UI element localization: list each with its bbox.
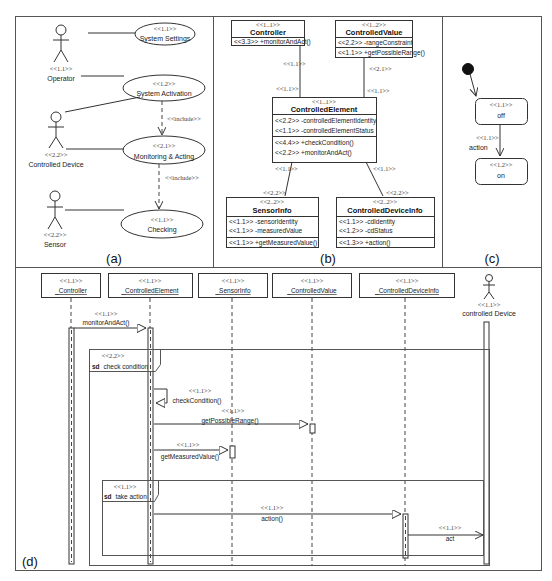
initial-state: [463, 64, 474, 75]
class-name: SensorInfo: [252, 206, 292, 215]
actor-controlled-device: <<2.2>> Controlled Device: [28, 112, 83, 168]
use-case-name: Monitoring & Acting: [134, 153, 194, 161]
fragment-keyword: sd: [92, 363, 100, 370]
actor-name: controlled Device: [462, 310, 516, 317]
class-attribute: <<1.1>> -measuredValue: [229, 227, 303, 234]
state-stereotype: <<1.2>>: [490, 161, 513, 168]
class-operation: <<2.2>> +monitorAndAct(): [275, 149, 352, 157]
class-name: ControlledValue: [345, 28, 402, 37]
use-case-diagram: <<1.1>> Operator <<2.2>> Controlled Devi…: [28, 23, 205, 266]
multiplicity-label: <<1.1>>: [276, 85, 299, 92]
multiplicity-label: <<1.1>>: [275, 165, 298, 172]
activation-bar-device: [484, 322, 489, 564]
class-controlled-device-info: <<2..2>> ControlledDeviceInfo <<1.1>> -c…: [337, 198, 435, 248]
fragment-keyword: sd: [104, 493, 112, 500]
class-stereotype: <<1..1>>: [312, 98, 337, 105]
use-case-system-settings: <<1.1>> System Settings: [135, 23, 195, 45]
class-operation: <<3.3>> +monitorAndAct(): [234, 38, 311, 46]
message-stereotype: <<1.1>>: [261, 504, 284, 511]
state-off: <<1.1>> off: [476, 99, 528, 125]
multiplicity-label: <<1.1>>: [373, 165, 396, 172]
panel-label-b: (b): [320, 251, 336, 266]
transition-label: action: [469, 144, 488, 151]
class-stereotype: <<2..2>>: [260, 198, 285, 205]
activation-bar-sensor-info: [230, 446, 235, 458]
lifeline-stereotype: <<1.1>>: [139, 277, 162, 284]
lifeline-name: _ControlledElement: [120, 287, 178, 295]
multiplicity-label: <<2.2>>: [386, 189, 409, 196]
class-stereotype: <<1..2>>: [362, 21, 387, 28]
actor-name: Sensor: [44, 241, 67, 248]
message-stereotype: <<1.1>>: [189, 387, 212, 394]
lifeline-name: _ControlledDeviceInfo: [374, 287, 439, 295]
panel-label-d: (d): [22, 554, 38, 569]
lifeline-name: _Controller: [54, 287, 88, 295]
message-check-condition: [154, 389, 167, 403]
class-operation: <<1.3>> +action(): [339, 239, 391, 247]
panel-label-c: (c): [484, 251, 499, 266]
lifeline-stereotype: <<1.1>>: [301, 277, 324, 284]
message-stereotype: <<1.1>>: [439, 524, 462, 531]
sequence-diagram: <<1.1>> _Controller <<1.1>> _ControlledE…: [22, 274, 516, 570]
message-label: act: [446, 535, 455, 542]
use-case-monitoring-acting: <<2.1>> Monitoring & Acting: [123, 136, 205, 164]
fragment-stereotype: <<2.2>>: [102, 352, 125, 359]
class-name: Controller: [250, 28, 286, 37]
fragment-take-action: [103, 481, 484, 556]
fragment-stereotype: <<1.1>>: [114, 483, 137, 490]
class-attribute: <<1.1>> -sensorIdentity: [229, 218, 298, 226]
message-stereotype: <<1.1>>: [95, 310, 118, 317]
message-label: monitorAndAct(): [83, 319, 130, 327]
lifeline-controlled-value: <<1.1>> _ControlledValue: [273, 274, 352, 298]
message-stereotype: <<1.1>>: [177, 441, 200, 448]
class-operation: <<1.1>> +getMeasuredValue(): [229, 239, 317, 247]
class-operation: <<4.4>> +checkCondition(): [275, 139, 354, 147]
actor-stereotype: <<2.2>>: [44, 231, 67, 238]
actor-name: Controlled Device: [28, 161, 83, 168]
use-case-name: Checking: [147, 226, 176, 234]
multiplicity-label: <<1.1>>: [367, 87, 390, 94]
fragment-name: check condition: [103, 363, 148, 370]
message-stereotype: <<1.1>>: [222, 407, 245, 414]
class-diagram: <<1.1>> <<1.1>> <<2.1>> <<1.1>> <<1.1>> …: [227, 21, 435, 267]
include-label: <<include>>: [165, 174, 199, 181]
use-case-system-activation: <<1.2>> System Activation: [123, 75, 205, 101]
lifeline-stereotype: <<1.1>>: [60, 277, 83, 284]
class-attribute: <<1.1>> -controlledElementStatus: [275, 127, 374, 134]
activation-bar-controlled-value: [310, 424, 315, 433]
class-attribute: <<1.2>> -cdStatus: [339, 227, 393, 234]
actor-stereotype: <<1.1>>: [478, 301, 501, 308]
actor-name: Operator: [47, 75, 75, 83]
state-diagram: <<1.1>> off <<1.1>> action <<1.2>> on (c…: [463, 64, 528, 267]
state-on: <<1.2>> on: [476, 159, 528, 185]
use-case-stereotype: <<1.1>>: [154, 25, 177, 32]
lifeline-stereotype: <<1.1>>: [222, 277, 245, 284]
lifeline-stereotype: <<1.1>>: [396, 277, 419, 284]
lifeline-controlled-element: <<1.1>> _ControlledElement: [109, 274, 193, 298]
use-case-stereotype: <<1.1>>: [151, 216, 174, 223]
use-case-stereotype: <<2.1>>: [153, 142, 176, 149]
lifeline-name: _ControlledValue: [286, 287, 337, 295]
fragment-title: sd take action: [104, 493, 147, 500]
class-controller: <<1..1>> Controller <<3.3>> +monitorAndA…: [232, 21, 311, 47]
class-sensor-info: <<2..2>> SensorInfo <<1.1>> -sensorIdent…: [227, 198, 319, 248]
use-case-name: System Activation: [136, 90, 191, 98]
actor-stereotype: <<2.2>>: [45, 151, 68, 158]
message-label: getMeasuredValue(): [161, 453, 219, 461]
uml-figure: <<1.1>> Operator <<2.2>> Controlled Devi…: [0, 0, 552, 581]
initial-transition: [470, 74, 476, 96]
class-stereotype: <<2..2>>: [373, 198, 398, 205]
state-name: on: [497, 172, 505, 179]
lifeline-controlled-device-info: <<1.1>> _ControlledDeviceInfo: [360, 274, 455, 298]
panel-label-a: (a): [106, 251, 122, 266]
use-case-name: System Settings: [140, 35, 191, 43]
class-name: ControlledDeviceInfo: [347, 206, 423, 215]
multiplicity-label: <<1.1>>: [283, 60, 306, 67]
lifeline-name: _SensorInfo: [214, 287, 250, 295]
lifeline-controller: <<1.1>> _Controller: [42, 274, 101, 298]
class-operation: <<1.1>> +getPossibleRange(): [338, 49, 425, 57]
actor-stereotype: <<1.1>>: [50, 65, 73, 72]
class-controlled-element: <<1..1>> ControlledElement <<2.2>> -cont…: [273, 98, 377, 163]
transition-stereotype: <<1.1>>: [476, 134, 499, 141]
use-case-stereotype: <<1.2>>: [153, 80, 176, 87]
